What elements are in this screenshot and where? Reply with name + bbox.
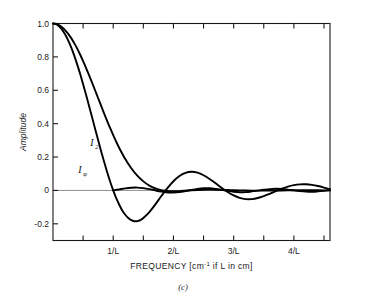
x-axis-tick-label: 3/L [228,246,240,256]
y-axis-tick-label: 0.2 [37,152,49,162]
svg-text:φ: φ [83,170,87,177]
x-axis-tick-label: 4/L [288,246,300,256]
x-axis-title: FREQUENCY [cm-1 if L in cm] [130,261,253,271]
svg-text:I: I [77,164,82,175]
y-axis-title: Amplitude [18,113,28,152]
x-axis-tick-label: 2/L [168,246,180,256]
data-curve-I_2 [53,24,330,192]
figure-container: 1.00.80.60.40.20-0.21/L2/L3/L4/LI2IφAmpl… [0,0,366,306]
y-axis-tick-label: 0.6 [37,85,49,95]
y-axis-tick-label: -0.2 [34,219,49,229]
y-axis-tick-label: 0 [44,185,49,195]
y-axis-tick-label: 0.8 [37,52,49,62]
svg-text:I: I [89,137,94,148]
amplitude-frequency-chart: 1.00.80.60.40.20-0.21/L2/L3/L4/LI2IφAmpl… [0,0,366,306]
curve-annotation-Iphi: Iφ [77,164,87,177]
x-axis-tick-label: 1/L [107,246,119,256]
plot-frame [53,24,330,241]
figure-caption: (c) [0,282,366,292]
y-axis-tick-label: 1.0 [37,19,49,29]
y-axis-tick-label: 0.4 [37,119,49,129]
data-curve-I_phi [53,24,330,222]
